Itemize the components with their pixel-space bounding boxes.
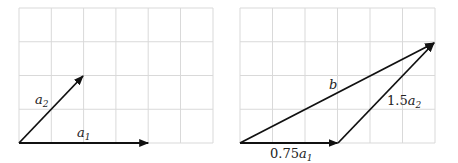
label-075a1: 0.75a1 bbox=[270, 146, 312, 163]
right-grid bbox=[240, 8, 435, 143]
left-grid bbox=[19, 8, 213, 143]
vector-diagram: a1 a2 0.75a1 1.5a2 b bbox=[0, 0, 458, 163]
vector-15a2-arrow bbox=[338, 43, 434, 143]
label-a1: a1 bbox=[77, 125, 91, 142]
label-15a2: 1.5a2 bbox=[387, 93, 421, 110]
label-b: b bbox=[329, 77, 337, 92]
label-a2: a2 bbox=[35, 92, 49, 109]
